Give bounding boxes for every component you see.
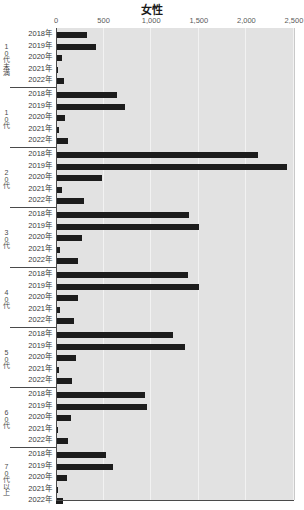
y-tick-label: 2019年	[12, 222, 52, 230]
y-tick-label: 2022年	[12, 196, 52, 204]
y-tick-label: 2018年	[12, 270, 52, 278]
y-tick-label: 2019年	[12, 42, 52, 50]
y-axis-group-label: 50代	[1, 330, 11, 388]
y-tick-label: 2019年	[12, 102, 52, 110]
y-axis-labels: 2018年2019年2020年2021年2022年10代未満2018年2019年…	[0, 0, 304, 510]
y-tick-label: 2020年	[12, 293, 52, 301]
y-tick-label: 2018年	[12, 90, 52, 98]
y-tick-label: 2018年	[12, 150, 52, 158]
y-tick-label: 2021年	[12, 425, 52, 433]
group-separator	[10, 147, 56, 148]
group-separator	[10, 207, 56, 208]
group-separator	[10, 267, 56, 268]
y-tick-label: 2021年	[12, 365, 52, 373]
y-tick-label: 2020年	[12, 53, 52, 61]
y-tick-label: 2020年	[12, 473, 52, 481]
y-axis-group-label: 20代	[1, 150, 11, 208]
y-tick-label: 2018年	[12, 30, 52, 38]
y-tick-label: 2022年	[12, 136, 52, 144]
y-tick-label: 2021年	[12, 305, 52, 313]
y-tick-label: 2021年	[12, 125, 52, 133]
y-axis-group-label: 60代	[1, 390, 11, 448]
y-tick-label: 2020年	[12, 353, 52, 361]
y-tick-label: 2018年	[12, 210, 52, 218]
group-separator	[10, 447, 56, 448]
y-axis-group-label: 70代以上	[1, 450, 11, 508]
y-tick-label: 2018年	[12, 330, 52, 338]
y-tick-label: 2022年	[12, 256, 52, 264]
group-separator	[10, 387, 56, 388]
y-axis-group-label: 40代	[1, 270, 11, 328]
y-tick-label: 2022年	[12, 496, 52, 504]
y-tick-label: 2020年	[12, 113, 52, 121]
y-tick-label: 2019年	[12, 462, 52, 470]
y-tick-label: 2022年	[12, 316, 52, 324]
y-tick-label: 2021年	[12, 185, 52, 193]
group-separator	[10, 327, 56, 328]
y-tick-label: 2020年	[12, 413, 52, 421]
y-tick-label: 2022年	[12, 436, 52, 444]
y-tick-label: 2022年	[12, 76, 52, 84]
y-tick-label: 2020年	[12, 173, 52, 181]
y-tick-label: 2022年	[12, 376, 52, 384]
bar-chart: 女性 05001,0001,5002,0002,500 2018年2019年20…	[0, 0, 304, 510]
y-tick-label: 2019年	[12, 402, 52, 410]
y-tick-label: 2020年	[12, 233, 52, 241]
y-tick-label: 2019年	[12, 342, 52, 350]
y-tick-label: 2019年	[12, 282, 52, 290]
y-tick-label: 2021年	[12, 245, 52, 253]
y-axis-group-label: 10代	[1, 90, 11, 148]
y-tick-label: 2019年	[12, 162, 52, 170]
group-separator	[10, 87, 56, 88]
y-axis-group-label: 10代未満	[1, 30, 11, 88]
y-tick-label: 2021年	[12, 65, 52, 73]
y-tick-label: 2018年	[12, 450, 52, 458]
y-tick-label: 2018年	[12, 390, 52, 398]
y-tick-label: 2021年	[12, 485, 52, 493]
y-axis-group-label: 30代	[1, 210, 11, 268]
